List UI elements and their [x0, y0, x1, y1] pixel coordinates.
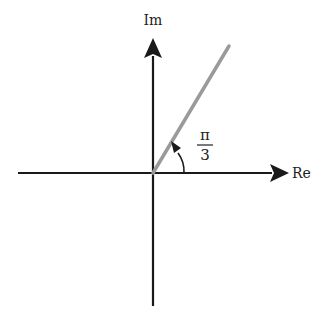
angle-arc [171, 141, 184, 173]
angle-label-denominator: 3 [200, 146, 210, 164]
imaginary-axis-label: Im [144, 12, 163, 28]
real-axis-arrow-icon [270, 164, 289, 182]
complex-plane-diagram: Im Re π 3 [0, 0, 331, 312]
angle-label-numerator: π [200, 126, 210, 144]
angle-ray [153, 46, 229, 173]
angle-arc-arrow-icon [171, 141, 181, 153]
angle-label: π 3 [197, 126, 213, 164]
real-axis-label: Re [292, 165, 311, 181]
imaginary-axis-arrow-icon [144, 38, 162, 58]
